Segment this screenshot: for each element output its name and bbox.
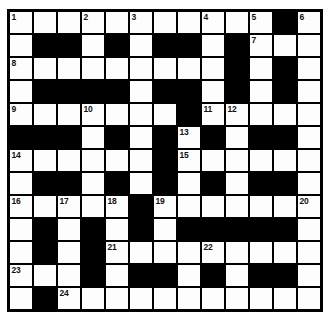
- grid-cell[interactable]: [105, 218, 129, 241]
- grid-cell[interactable]: [201, 287, 225, 310]
- grid-cell[interactable]: [33, 11, 57, 34]
- grid-cell[interactable]: [57, 11, 81, 34]
- grid-cell[interactable]: [201, 149, 225, 172]
- grid-cell[interactable]: [33, 57, 57, 80]
- grid-cell[interactable]: 3: [129, 11, 153, 34]
- grid-cell[interactable]: [129, 34, 153, 57]
- grid-cell[interactable]: [105, 57, 129, 80]
- grid-cell[interactable]: [105, 11, 129, 34]
- grid-cell[interactable]: 1: [9, 11, 33, 34]
- grid-cell[interactable]: [201, 57, 225, 80]
- grid-cell[interactable]: [297, 149, 321, 172]
- grid-cell[interactable]: [129, 149, 153, 172]
- grid-cell[interactable]: [129, 103, 153, 126]
- grid-cell[interactable]: 12: [225, 103, 249, 126]
- grid-cell[interactable]: 6: [297, 11, 321, 34]
- grid-cell[interactable]: [153, 11, 177, 34]
- grid-cell[interactable]: [9, 172, 33, 195]
- grid-cell[interactable]: [57, 149, 81, 172]
- grid-cell[interactable]: [105, 103, 129, 126]
- grid-cell[interactable]: [273, 241, 297, 264]
- grid-cell[interactable]: [297, 126, 321, 149]
- grid-cell[interactable]: [297, 34, 321, 57]
- grid-cell[interactable]: [9, 218, 33, 241]
- grid-cell[interactable]: [57, 103, 81, 126]
- grid-cell[interactable]: [129, 172, 153, 195]
- grid-cell[interactable]: 8: [9, 57, 33, 80]
- grid-cell[interactable]: 19: [153, 195, 177, 218]
- grid-cell[interactable]: [177, 287, 201, 310]
- grid-cell[interactable]: 9: [9, 103, 33, 126]
- grid-cell[interactable]: [9, 287, 33, 310]
- grid-cell[interactable]: 23: [9, 264, 33, 287]
- grid-cell[interactable]: [177, 195, 201, 218]
- grid-cell[interactable]: [33, 149, 57, 172]
- grid-cell[interactable]: 17: [57, 195, 81, 218]
- grid-cell[interactable]: [297, 241, 321, 264]
- grid-cell[interactable]: 5: [249, 11, 273, 34]
- grid-cell[interactable]: [153, 57, 177, 80]
- grid-cell[interactable]: [81, 195, 105, 218]
- crossword-grid[interactable]: 123456789101112131415161718192021222324: [7, 9, 323, 312]
- grid-cell[interactable]: [201, 34, 225, 57]
- grid-cell[interactable]: [225, 195, 249, 218]
- grid-cell[interactable]: 13: [177, 126, 201, 149]
- grid-cell[interactable]: 24: [57, 287, 81, 310]
- grid-cell[interactable]: [273, 149, 297, 172]
- grid-cell[interactable]: [297, 287, 321, 310]
- grid-cell[interactable]: [201, 80, 225, 103]
- grid-cell[interactable]: [33, 103, 57, 126]
- grid-cell[interactable]: 10: [81, 103, 105, 126]
- grid-cell[interactable]: [57, 218, 81, 241]
- grid-cell[interactable]: [225, 241, 249, 264]
- grid-cell[interactable]: [273, 34, 297, 57]
- grid-cell[interactable]: [57, 241, 81, 264]
- grid-cell[interactable]: [129, 287, 153, 310]
- grid-cell[interactable]: 7: [249, 34, 273, 57]
- grid-cell[interactable]: 18: [105, 195, 129, 218]
- grid-cell[interactable]: [153, 218, 177, 241]
- grid-cell[interactable]: [153, 241, 177, 264]
- grid-cell[interactable]: [153, 287, 177, 310]
- grid-cell[interactable]: [33, 195, 57, 218]
- grid-cell[interactable]: [129, 80, 153, 103]
- grid-cell[interactable]: [129, 241, 153, 264]
- grid-cell[interactable]: [225, 172, 249, 195]
- grid-cell[interactable]: [273, 195, 297, 218]
- grid-cell[interactable]: [105, 264, 129, 287]
- grid-cell[interactable]: [9, 34, 33, 57]
- grid-cell[interactable]: [81, 149, 105, 172]
- grid-cell[interactable]: [201, 195, 225, 218]
- grid-cell[interactable]: [297, 103, 321, 126]
- grid-cell[interactable]: [249, 57, 273, 80]
- grid-cell[interactable]: [297, 264, 321, 287]
- grid-cell[interactable]: [225, 264, 249, 287]
- grid-cell[interactable]: [249, 80, 273, 103]
- grid-cell[interactable]: [273, 103, 297, 126]
- grid-cell[interactable]: [249, 103, 273, 126]
- grid-cell[interactable]: [297, 172, 321, 195]
- grid-cell[interactable]: [9, 241, 33, 264]
- grid-cell[interactable]: 11: [201, 103, 225, 126]
- grid-cell[interactable]: [225, 149, 249, 172]
- grid-cell[interactable]: [249, 241, 273, 264]
- grid-cell[interactable]: [153, 103, 177, 126]
- grid-cell[interactable]: [249, 287, 273, 310]
- grid-cell[interactable]: [81, 287, 105, 310]
- grid-cell[interactable]: [177, 172, 201, 195]
- grid-cell[interactable]: [225, 11, 249, 34]
- grid-cell[interactable]: [129, 126, 153, 149]
- grid-cell[interactable]: [177, 11, 201, 34]
- grid-cell[interactable]: [249, 195, 273, 218]
- grid-cell[interactable]: 15: [177, 149, 201, 172]
- grid-cell[interactable]: [225, 126, 249, 149]
- grid-cell[interactable]: [297, 80, 321, 103]
- grid-cell[interactable]: [177, 57, 201, 80]
- grid-cell[interactable]: [81, 126, 105, 149]
- grid-cell[interactable]: [9, 80, 33, 103]
- grid-cell[interactable]: [297, 57, 321, 80]
- grid-cell[interactable]: [81, 172, 105, 195]
- grid-cell[interactable]: 20: [297, 195, 321, 218]
- grid-cell[interactable]: [105, 287, 129, 310]
- grid-cell[interactable]: [249, 149, 273, 172]
